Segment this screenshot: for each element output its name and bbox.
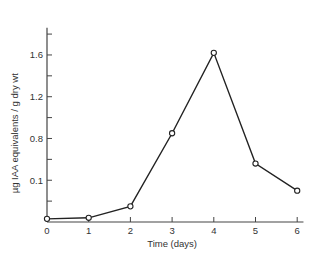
y-axis-title: µg IAA equivalents / g dry wt <box>9 73 20 193</box>
data-point-marker <box>44 216 49 221</box>
x-tick-label: 6 <box>295 225 300 236</box>
y-tick-label: 0.8 <box>30 133 43 144</box>
data-point-marker <box>253 161 258 166</box>
x-tick-label: 0 <box>44 225 49 236</box>
y-tick-label: 1.6 <box>30 49 43 60</box>
x-tick-label: 3 <box>169 225 174 236</box>
x-tick-label: 4 <box>211 225 216 236</box>
data-point-marker <box>295 188 300 193</box>
x-axis-title: Time (days) <box>147 238 197 249</box>
data-point-marker <box>170 131 175 136</box>
y-ticks: 0.10.81.21.6 <box>30 34 52 201</box>
data-point-marker <box>86 215 91 220</box>
x-tick-label: 2 <box>128 225 133 236</box>
x-tick-label: 1 <box>86 225 91 236</box>
x-tick-label: 5 <box>253 225 258 236</box>
y-tick-label: 0.1 <box>30 175 43 186</box>
data-point-marker <box>128 204 133 209</box>
y-tick-label: 1.2 <box>30 91 43 102</box>
data-point-marker <box>211 50 216 55</box>
data-series <box>44 50 299 221</box>
y-axis: 0.10.81.21.6 <box>30 28 52 222</box>
x-axis: 0123456 <box>44 217 303 236</box>
x-ticks: 0123456 <box>44 217 299 236</box>
line-chart: 0.10.81.21.6 0123456 Time (days) µg IAA … <box>0 0 315 261</box>
